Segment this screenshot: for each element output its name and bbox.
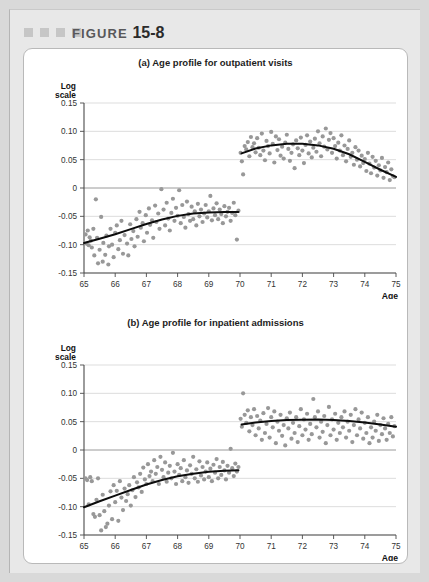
data-point <box>216 217 220 221</box>
data-point <box>102 509 106 513</box>
data-point <box>225 464 229 468</box>
data-point <box>366 415 370 419</box>
data-point <box>211 206 215 210</box>
data-point <box>185 468 189 472</box>
x-tick-label: 66 <box>111 542 121 551</box>
data-point <box>280 434 284 438</box>
data-point <box>283 443 287 447</box>
data-point <box>156 211 160 215</box>
data-point <box>261 411 265 415</box>
data-point <box>389 167 393 171</box>
data-point <box>147 206 151 210</box>
x-tick-label: 67 <box>142 280 152 289</box>
data-point <box>140 490 144 494</box>
header-square-3 <box>56 28 65 37</box>
data-point <box>342 409 346 413</box>
data-point <box>293 431 297 435</box>
data-point <box>322 414 326 418</box>
data-point <box>197 214 201 218</box>
data-point <box>285 133 289 137</box>
y-tick-label: -0.10 <box>58 503 77 512</box>
data-point <box>116 519 120 523</box>
data-point <box>163 223 167 227</box>
data-point <box>241 391 245 395</box>
data-point <box>310 432 314 436</box>
data-point <box>268 435 272 439</box>
data-point <box>338 431 342 435</box>
data-point <box>305 412 309 416</box>
y-tick-label: 0 <box>72 446 77 455</box>
data-point <box>375 173 379 177</box>
data-point <box>101 493 105 497</box>
y-tick-label: 0 <box>72 184 77 193</box>
data-point <box>321 134 325 138</box>
header-square-2 <box>40 28 49 37</box>
data-point <box>268 151 272 155</box>
figure-label-text: FIGURE <box>72 26 128 41</box>
data-point <box>371 435 375 439</box>
y-tick-label: -0.15 <box>58 531 77 540</box>
data-point <box>282 423 286 427</box>
data-point <box>313 137 317 141</box>
data-point <box>171 197 175 201</box>
data-point <box>137 210 141 214</box>
data-point <box>288 159 292 163</box>
data-point <box>199 207 203 211</box>
data-point <box>200 465 204 469</box>
data-point <box>274 134 278 138</box>
data-point <box>125 241 129 245</box>
data-point <box>108 489 112 493</box>
figure-header: FIGURE 15-8 <box>10 18 421 44</box>
data-point <box>166 471 170 475</box>
x-tick-label: 65 <box>79 542 89 551</box>
data-point <box>224 214 228 218</box>
data-point <box>377 439 381 443</box>
data-point <box>275 148 279 152</box>
data-point <box>126 492 130 496</box>
chart-b: Logscale0.150.100.050-0.05-0.10-0.156566… <box>24 329 408 561</box>
data-point <box>233 213 237 217</box>
data-point <box>255 136 259 140</box>
x-axis-label: Age <box>382 553 398 561</box>
data-point <box>374 429 378 433</box>
figure-card: (a) Age profile for outpatient visits Lo… <box>23 48 408 564</box>
data-point <box>141 465 145 469</box>
data-point <box>307 151 311 155</box>
data-point <box>311 146 315 150</box>
data-point <box>297 153 301 157</box>
data-point <box>272 409 276 413</box>
data-point <box>91 227 95 231</box>
data-point <box>221 460 225 464</box>
data-point <box>264 139 268 143</box>
data-point <box>277 429 281 433</box>
data-point <box>252 141 256 145</box>
data-point <box>216 476 220 480</box>
y-tick-label: -0.15 <box>58 269 77 278</box>
data-point <box>339 133 343 137</box>
x-tick-label: 65 <box>79 280 89 289</box>
data-point <box>105 522 109 526</box>
data-point <box>132 475 136 479</box>
data-point <box>143 477 147 481</box>
data-point <box>127 483 131 487</box>
data-point <box>157 227 161 231</box>
data-point <box>145 231 149 235</box>
data-point <box>291 421 295 425</box>
data-point <box>236 465 240 469</box>
data-point <box>260 132 264 136</box>
data-point <box>339 415 343 419</box>
data-point <box>227 206 231 210</box>
y-tick-label: 0.05 <box>61 418 77 427</box>
chart-a-title: (a) Age profile for outpatient visits <box>24 57 407 68</box>
x-tick-label: 69 <box>204 542 214 551</box>
data-point <box>347 429 351 433</box>
data-point <box>317 435 321 439</box>
data-point <box>266 406 270 410</box>
data-point <box>258 153 262 157</box>
y-tick-label: -0.05 <box>58 212 77 221</box>
data-point <box>221 221 225 225</box>
data-point <box>219 473 223 477</box>
data-point <box>119 219 123 223</box>
data-point <box>218 207 222 211</box>
data-point <box>358 426 362 430</box>
